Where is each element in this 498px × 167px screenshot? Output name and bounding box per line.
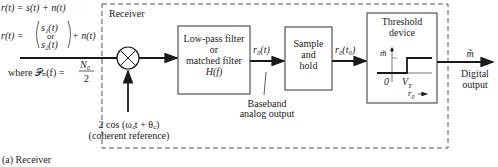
sample-label-1: Sample bbox=[285, 38, 332, 49]
eq2-right-paren bbox=[68, 21, 71, 48]
threshold-label-1: Threshold bbox=[367, 16, 437, 27]
sample-label-2: and bbox=[285, 49, 332, 60]
baseband-tap-line bbox=[264, 72, 266, 95]
figure-caption: (a) Receiver bbox=[2, 154, 51, 165]
output-symbol: m̃ bbox=[460, 48, 480, 59]
psd-label: where 𝒫ₙ(f) = bbox=[8, 67, 64, 78]
baseband-label-2: analog output bbox=[237, 108, 297, 119]
threshold-y-label: m̃ bbox=[380, 48, 387, 59]
threshold-label-2: device bbox=[367, 27, 437, 38]
eq2-rhs: + n(t) bbox=[72, 30, 96, 41]
eq2-lhs: r(t) = bbox=[1, 30, 24, 41]
received-signal-equation: r(t) = s(t) + n(t) bbox=[1, 2, 66, 13]
threshold-r0-label: r0 bbox=[408, 88, 415, 103]
coherent-reference-label: (coherent reference) bbox=[88, 130, 170, 141]
coherent-reference-equation: 2 cos (ω꜀t + θ꜀) bbox=[88, 119, 170, 130]
digital-output-label-2: output bbox=[455, 79, 495, 90]
filter-label-2: or bbox=[178, 44, 250, 55]
receiver-label: Receiver bbox=[109, 8, 145, 19]
psd-denominator: 2 bbox=[84, 73, 89, 84]
psd-numerator: N₀ bbox=[80, 59, 90, 70]
filter-label-1: Low-pass filter bbox=[178, 33, 250, 44]
threshold-origin: 0 bbox=[384, 76, 389, 87]
mixer-icon bbox=[117, 47, 139, 69]
digital-output-label-1: Digital bbox=[455, 68, 495, 79]
filter-label-4: H(f) bbox=[178, 66, 250, 77]
eq2-left-paren bbox=[37, 21, 40, 48]
filter-output-label: r₀(t) bbox=[253, 44, 270, 55]
sample-label-3: hold bbox=[285, 60, 332, 71]
filter-label-3: matched filter bbox=[178, 55, 250, 66]
sample-output-label: r₀(t₀) bbox=[335, 44, 355, 55]
eq2-s2: s₂(t) bbox=[41, 39, 58, 50]
